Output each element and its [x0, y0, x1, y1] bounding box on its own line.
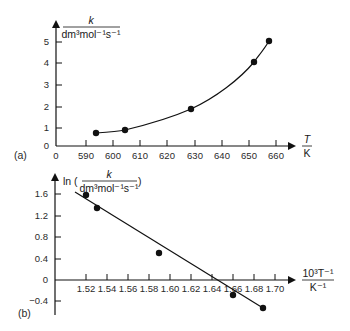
data-point — [94, 205, 100, 211]
panel-a-x-tick-labels: 0 590 600 610 620 630 640 650 660 — [53, 150, 284, 161]
data-point — [156, 250, 162, 256]
data-point — [260, 305, 266, 311]
x-tick-label: 660 — [268, 150, 284, 161]
panel-b-x-ticks — [86, 274, 275, 280]
x-label-denominator: K⁻¹ — [310, 281, 327, 293]
y-tick-label: 0.4 — [35, 253, 48, 264]
x-tick-label: 650 — [241, 150, 257, 161]
panel-a-label: (a) — [14, 149, 27, 161]
x-tick-label: 630 — [187, 150, 203, 161]
y-tick-label: 3 — [44, 79, 49, 90]
panel-b-label: (b) — [18, 307, 31, 319]
x-label-denominator: K — [303, 147, 310, 159]
panel-a-y-ticks — [56, 42, 62, 128]
panel-b-y-axis-label: ln ( k dm³mol⁻¹s⁻¹ ) — [63, 168, 142, 194]
figure: 0 1 2 3 4 5 0 590 600 610 620 630 640 65 — [0, 0, 350, 331]
y-tick-label: 0.8 — [35, 231, 48, 242]
panel-b-y-tick-labels: 1.6 1.2 0.8 0.4 0 −0.4 — [29, 188, 48, 306]
x-tick-label: 1.62 — [182, 283, 201, 294]
panel-b: 1.6 1.2 0.8 0.4 0 −0.4 1.52 1.54 1.56 1.… — [18, 168, 334, 319]
y-tick-label: 2 — [44, 101, 49, 112]
x-label-numerator: 10³T⁻¹ — [302, 267, 334, 279]
x-tick-label: 1.60 — [161, 283, 180, 294]
x-tick-label: 590 — [78, 150, 94, 161]
x-tick-label: 1.54 — [98, 283, 117, 294]
data-point — [266, 38, 272, 44]
panel-a-x-ticks — [86, 140, 276, 146]
panel-a-x-axis-label: T K — [302, 133, 312, 159]
data-point — [122, 127, 128, 133]
y-tick-label: 5 — [44, 36, 49, 47]
data-point — [188, 106, 194, 112]
panel-b-x-axis-label: 10³T⁻¹ K⁻¹ — [302, 267, 334, 293]
y-label-numerator: k — [106, 168, 112, 180]
x-tick-label: 1.64 — [203, 283, 222, 294]
data-point — [251, 59, 257, 65]
x-tick-label: 1.68 — [245, 283, 264, 294]
x-tick-label: 1.56 — [119, 283, 138, 294]
y-tick-label: 1 — [44, 122, 49, 133]
x-tick-label: 620 — [159, 150, 175, 161]
panel-b-y-ticks — [55, 194, 61, 301]
x-label-numerator: T — [304, 133, 312, 145]
panel-a-fit-curve — [96, 41, 269, 133]
panel-a-y-axis-label: k dm³mol⁻¹s⁻¹ — [61, 14, 121, 40]
y-tick-label: 1.6 — [35, 188, 48, 199]
x-tick-label: 640 — [214, 150, 230, 161]
data-point — [93, 130, 99, 136]
panel-a-y-tick-labels: 0 1 2 3 4 5 — [44, 36, 49, 151]
x-tick-label: 600 — [105, 150, 121, 161]
y-tick-label: 4 — [44, 57, 49, 68]
y-label-suffix: ) — [138, 175, 142, 187]
data-point — [83, 192, 89, 198]
y-tick-label: 0 — [43, 274, 48, 285]
panel-a-data-points — [93, 38, 272, 136]
y-label-denominator: dm³mol⁻¹s⁻¹ — [79, 182, 139, 194]
panel-b-x-tick-labels: 1.52 1.54 1.56 1.58 1.60 1.62 1.64 1.66 … — [77, 283, 285, 294]
data-point — [230, 292, 236, 298]
y-label-prefix: ln ( — [63, 175, 78, 187]
y-tick-label: 1.2 — [35, 210, 48, 221]
panel-a: 0 1 2 3 4 5 0 590 600 610 620 630 640 65 — [14, 14, 312, 161]
y-tick-label: −0.4 — [29, 295, 48, 306]
panel-a-origin-y: 0 — [44, 140, 49, 151]
y-label-denominator: dm³mol⁻¹s⁻¹ — [61, 28, 121, 40]
x-tick-label: 610 — [132, 150, 148, 161]
panel-a-origin-x: 0 — [53, 150, 58, 161]
x-tick-label: 1.52 — [77, 283, 96, 294]
y-label-numerator: k — [88, 14, 94, 26]
x-tick-label: 1.70 — [266, 283, 285, 294]
x-tick-label: 1.58 — [140, 283, 159, 294]
